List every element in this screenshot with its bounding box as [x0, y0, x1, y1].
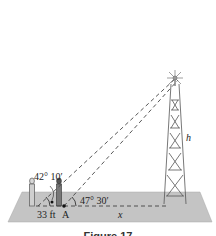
point-far-marker — [51, 201, 54, 204]
distance-between-label: 33 ft — [37, 209, 56, 220]
observer-near — [57, 178, 62, 206]
distance-x-label: x — [117, 209, 123, 220]
figure-caption: Figure 17 — [0, 230, 216, 236]
sight-line-near — [64, 80, 178, 206]
sight-line-far — [38, 78, 176, 206]
point-a-marker — [62, 204, 66, 208]
tower-height-label: h — [186, 132, 191, 143]
angle-far-label: 42° 10′ — [34, 171, 63, 182]
observer-far — [30, 178, 35, 206]
tower-angle-diagram: 42° 10′ 47° 30′ 33 ft A x h — [0, 0, 216, 236]
radio-tower — [164, 78, 186, 204]
point-a-label: A — [62, 209, 70, 220]
angle-near-label: 47° 30′ — [80, 195, 109, 206]
tower-light-icon — [167, 70, 183, 86]
